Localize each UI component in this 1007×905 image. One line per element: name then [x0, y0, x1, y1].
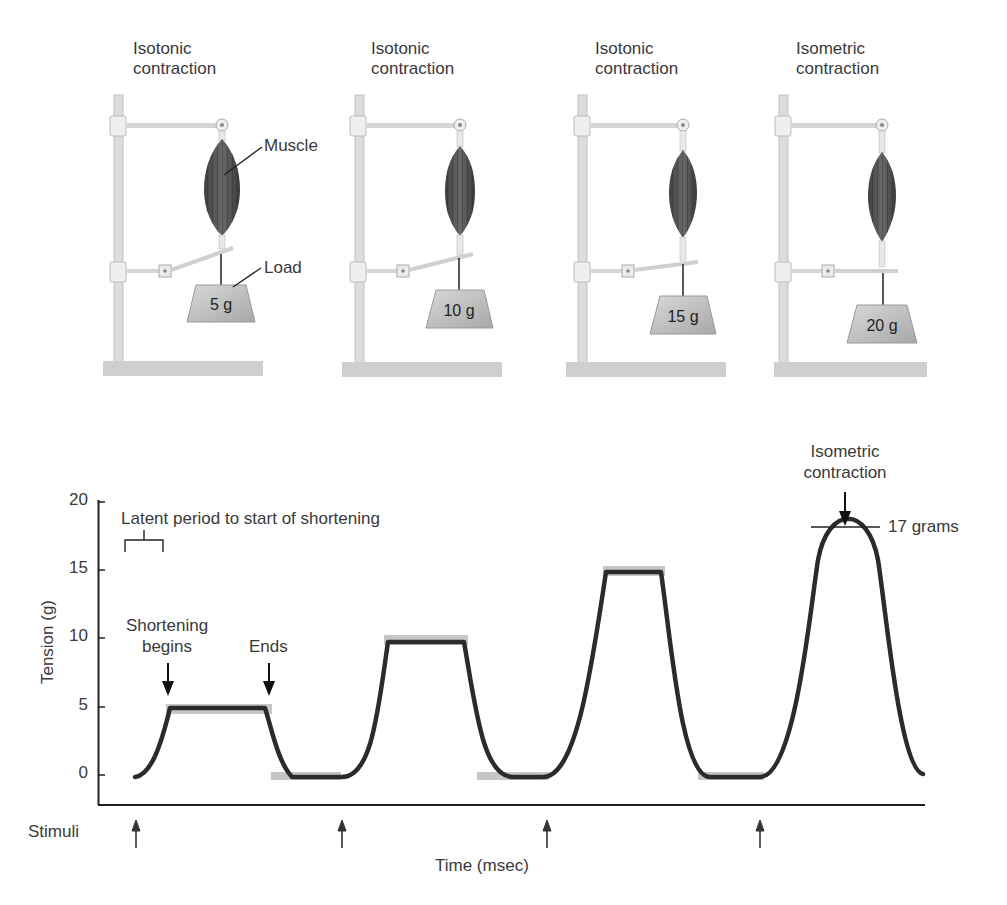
apparatus-panel-2: 10 g: [342, 95, 502, 377]
panel-title-line1: Isotonic: [133, 39, 216, 59]
panel-title-line1: Isometric: [796, 39, 879, 59]
stimuli-label: Stimuli: [28, 821, 79, 842]
y-tick-label: 20: [58, 490, 88, 510]
shortening-begins-label: Shortening begins: [122, 615, 212, 657]
panel-title-line2: contraction: [371, 59, 454, 79]
clamp-lower: [110, 262, 126, 282]
panel-title-line2: contraction: [796, 59, 879, 79]
stimulus-arrows: [132, 820, 764, 848]
clamp-upper: [110, 116, 126, 136]
weight-label: 5 g: [210, 296, 232, 313]
load-callout: Load: [264, 258, 302, 278]
panel-title-line1: Isotonic: [371, 39, 454, 59]
lever-arm: [171, 248, 233, 270]
y-axis-label: Tension (g): [38, 587, 58, 697]
apparatus-panel-3: 15 g: [566, 95, 726, 377]
weight-label: 20 g: [866, 317, 897, 334]
weight-label: 15 g: [667, 308, 698, 325]
latent-period-bracket: [125, 530, 163, 552]
panel-title-line2: contraction: [595, 59, 678, 79]
label-line2: begins: [122, 636, 212, 657]
stimulus-arrow-3: [543, 820, 551, 848]
y-tick-label: 5: [58, 695, 88, 715]
panel-1-title: Isotonic contraction: [133, 39, 216, 79]
muscle-callout: Muscle: [264, 136, 318, 156]
upper-arm: [126, 123, 221, 128]
ends-label: Ends: [249, 636, 288, 657]
panel-2-title: Isotonic contraction: [371, 39, 454, 79]
panel-3-title: Isotonic contraction: [595, 39, 678, 79]
label-line1: Shortening: [122, 615, 212, 636]
panel-4-title: Isometric contraction: [796, 39, 879, 79]
tendon-lower: [219, 235, 225, 249]
x-axis-label: Time (msec): [435, 855, 529, 876]
panel-title-line2: contraction: [133, 59, 216, 79]
stimulus-arrow-2: [338, 820, 346, 848]
arrow-shortening-begins: [162, 663, 174, 696]
stimulus-arrow-4: [756, 820, 764, 848]
apparatus-panel-1: 5 g: [103, 95, 263, 376]
y-tick-label: 15: [58, 558, 88, 578]
y-tick-label: 10: [58, 626, 88, 646]
label-line1: Isometric: [800, 441, 890, 462]
label-line2: contraction: [800, 462, 890, 483]
stimulus-arrow-1: [132, 820, 140, 848]
y-tick-label: 0: [58, 763, 88, 783]
panel-title-line1: Isotonic: [595, 39, 678, 59]
weight-label: 10 g: [443, 302, 474, 319]
load-callout-line: [233, 268, 261, 287]
peak-value-label: 17 grams: [888, 516, 959, 537]
arrow-ends: [263, 663, 275, 696]
isometric-contraction-label: Isometric contraction: [800, 441, 890, 483]
latent-period-label: Latent period to start of shortening: [121, 508, 380, 529]
apparatus-panel-4: 20 g: [774, 95, 927, 377]
stand-base: [103, 361, 263, 376]
